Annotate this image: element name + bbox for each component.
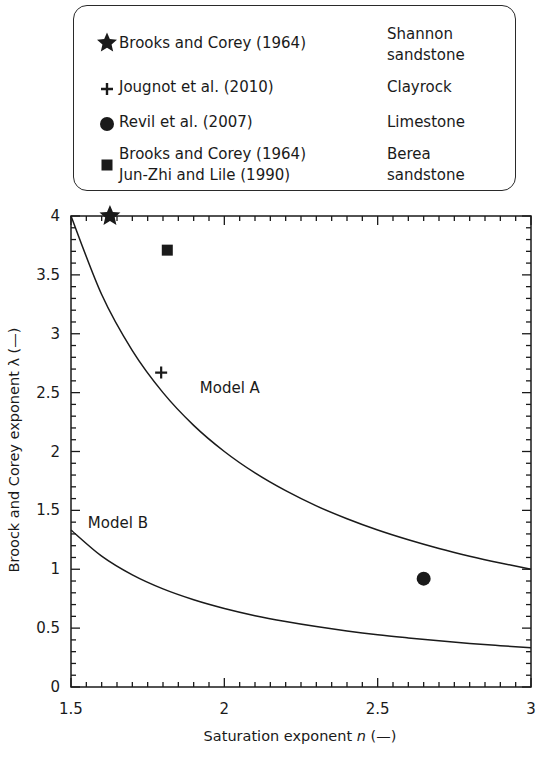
x-tick-label: 2 xyxy=(220,700,230,718)
square-marker-icon xyxy=(96,154,118,176)
plot-frame xyxy=(71,216,531,687)
y-tick-label: 3.5 xyxy=(36,266,60,284)
legend-material: Clayrock xyxy=(387,77,452,98)
x-axis-label: Saturation exponent n (—) xyxy=(204,728,397,744)
legend-material: Shannon sandstone xyxy=(387,24,465,66)
y-tick-label: 1 xyxy=(50,560,60,578)
model-curves xyxy=(71,216,531,648)
y-tick-label: 0 xyxy=(50,678,60,696)
circle-marker-icon xyxy=(417,572,431,586)
legend: Brooks and Corey (1964) Shannon sandston… xyxy=(73,5,516,191)
legend-source: Revil et al. (2007) xyxy=(119,112,253,133)
y-tick-label: 4 xyxy=(50,207,60,225)
model-labels: Model AModel B xyxy=(88,379,261,532)
model-a-label: Model A xyxy=(200,379,261,397)
data-points xyxy=(99,205,430,586)
axis-ticks xyxy=(71,216,531,687)
legend-material: Limestone xyxy=(387,112,465,133)
plus-marker-icon xyxy=(96,78,118,100)
plus-marker-icon xyxy=(155,367,167,379)
legend-source: Jougnot et al. (2010) xyxy=(119,77,274,98)
square-marker-icon xyxy=(162,245,173,256)
model-b-curve xyxy=(71,530,531,648)
y-axis-label: Broock and Corey exponent λ (—) xyxy=(6,328,22,573)
y-tick-label: 0.5 xyxy=(36,619,60,637)
x-axis-label-suffix: (—) xyxy=(366,728,396,744)
star-marker-icon xyxy=(96,32,118,54)
legend-source: Brooks and Corey (1964) Jun-Zhi and Lile… xyxy=(119,144,306,186)
y-tick-label: 2 xyxy=(50,443,60,461)
legend-material: Berea sandstone xyxy=(387,144,465,186)
model-b-label: Model B xyxy=(88,514,148,532)
x-tick-label: 1.5 xyxy=(59,700,83,718)
star-marker-icon xyxy=(99,205,120,225)
x-tick-label: 3 xyxy=(526,700,536,718)
x-axis-label-prefix: Saturation exponent xyxy=(204,728,357,744)
tick-labels: 1.522.5300.511.522.533.54 xyxy=(36,207,536,718)
x-axis-variable: n xyxy=(357,728,366,744)
y-tick-label: 2.5 xyxy=(36,384,60,402)
legend-source: Brooks and Corey (1964) xyxy=(119,33,306,54)
circle-marker-icon xyxy=(96,113,118,135)
y-tick-label: 1.5 xyxy=(36,501,60,519)
x-tick-label: 2.5 xyxy=(366,700,390,718)
y-tick-label: 3 xyxy=(50,325,60,343)
